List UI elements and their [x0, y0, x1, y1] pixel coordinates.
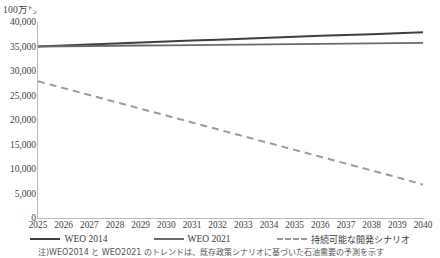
- y-axis-tick-label: 10,000: [2, 164, 36, 174]
- chart-caption: 注)WEO2014 と WEO2021 のトレンドは、既存政策シナリオに基づいた…: [38, 248, 438, 258]
- x-axis-tick-label: 2034: [260, 220, 279, 230]
- legend-item[interactable]: WEO 2021: [154, 234, 231, 244]
- y-axis-tick-label: 40,000: [2, 17, 36, 27]
- legend-swatch-icon: [277, 238, 307, 240]
- x-axis-tick-label: 2035: [285, 220, 304, 230]
- chart-legend: WEO 2014WEO 2021持続可能な開発シナリオ: [0, 232, 440, 246]
- x-axis-tick-label: 2028: [106, 220, 125, 230]
- x-axis-tick-label: 2038: [362, 220, 381, 230]
- y-axis-tick-label: 15,000: [2, 140, 36, 150]
- series-line: [38, 81, 423, 184]
- x-axis-tick-label: 2026: [54, 220, 73, 230]
- y-axis-tick-label: 20,000: [2, 115, 36, 125]
- x-axis-tick-label: 2037: [337, 220, 356, 230]
- legend-item[interactable]: WEO 2014: [30, 234, 107, 244]
- legend-swatch-icon: [30, 238, 60, 240]
- x-axis-tick-label: 2039: [388, 220, 407, 230]
- x-axis-tick-label: 2040: [414, 220, 433, 230]
- y-axis-tick-label: 5,000: [2, 189, 36, 199]
- legend-swatch-icon: [154, 238, 184, 240]
- x-axis-tick-label: 2033: [234, 220, 253, 230]
- x-axis-tick-label: 2036: [311, 220, 330, 230]
- x-axis-tick-label: 2032: [208, 220, 227, 230]
- plot-area: [38, 22, 423, 218]
- legend-label: WEO 2021: [188, 234, 231, 244]
- y-axis-tick-label: 25,000: [2, 91, 36, 101]
- x-axis-tick-label: 2029: [131, 220, 150, 230]
- x-axis-tick-label: 2030: [157, 220, 176, 230]
- legend-item[interactable]: 持続可能な開発シナリオ: [277, 233, 410, 246]
- legend-label: 持続可能な開発シナリオ: [311, 233, 410, 246]
- x-axis-line: [37, 218, 424, 219]
- y-axis-tick-label: 35,000: [2, 42, 36, 52]
- x-axis-tick-label: 2025: [29, 220, 48, 230]
- y-axis-tick-label: 30,000: [2, 66, 36, 76]
- x-axis-tick-label: 2031: [183, 220, 202, 230]
- y-axis-tick-labels: 40,00035,00030,00025,00020,00015,00010,0…: [0, 0, 36, 256]
- series-lines: [38, 22, 423, 218]
- legend-label: WEO 2014: [64, 234, 107, 244]
- x-axis-tick-label: 2027: [80, 220, 99, 230]
